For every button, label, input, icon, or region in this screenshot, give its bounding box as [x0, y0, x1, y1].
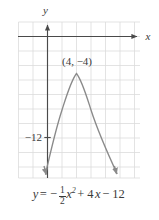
equation-leading-minus: −	[48, 187, 58, 201]
equation-plus: +	[76, 187, 86, 201]
equation-trailing-minus: −	[101, 187, 111, 201]
figure-screenshot: y x (4, −4) −12 y=−12x2+4x−12	[0, 0, 159, 220]
grid-lines	[19, 22, 141, 178]
axes	[18, 25, 137, 178]
fraction-denominator: 2	[59, 197, 66, 207]
parabola-graph-figure: y x (4, −4) −12 y=−12x2+4x−12	[0, 0, 159, 220]
vertex-label: (4, −4)	[62, 55, 92, 68]
equation-caption: y=−12x2+4x−12	[0, 186, 159, 206]
x-axis-label: x	[145, 30, 151, 42]
y-axis-label: y	[42, 4, 48, 16]
equation-equals: =	[38, 187, 48, 201]
fraction-numerator: 1	[59, 186, 66, 197]
equation-constant: 12	[111, 187, 127, 201]
equation-fraction: 12	[59, 186, 66, 206]
y-intercept-label: −12	[25, 131, 42, 143]
equation-linear-coeff: 4	[86, 187, 95, 201]
equation-linear-var: x	[95, 187, 101, 201]
